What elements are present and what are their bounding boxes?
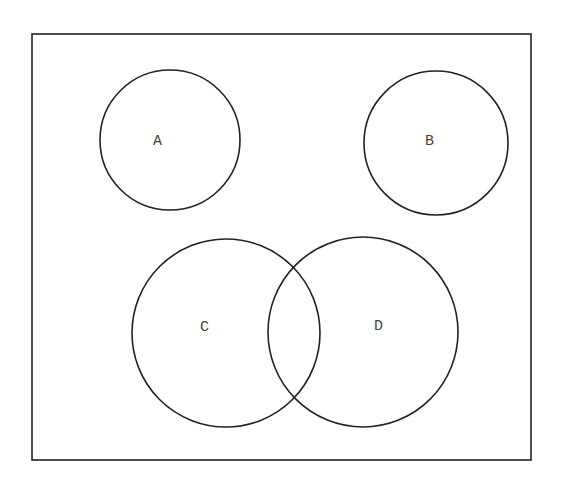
set-circle-d: [268, 237, 458, 427]
set-label-d: D: [374, 318, 383, 335]
set-circle-c: [132, 239, 320, 427]
set-label-b: B: [425, 133, 434, 150]
set-label-a: A: [153, 133, 162, 150]
universe-rectangle: [32, 34, 531, 460]
set-circle-a: [100, 70, 240, 210]
venn-diagram: ABCD: [0, 0, 561, 482]
set-label-c: C: [200, 319, 209, 336]
set-circle-b: [364, 71, 508, 215]
